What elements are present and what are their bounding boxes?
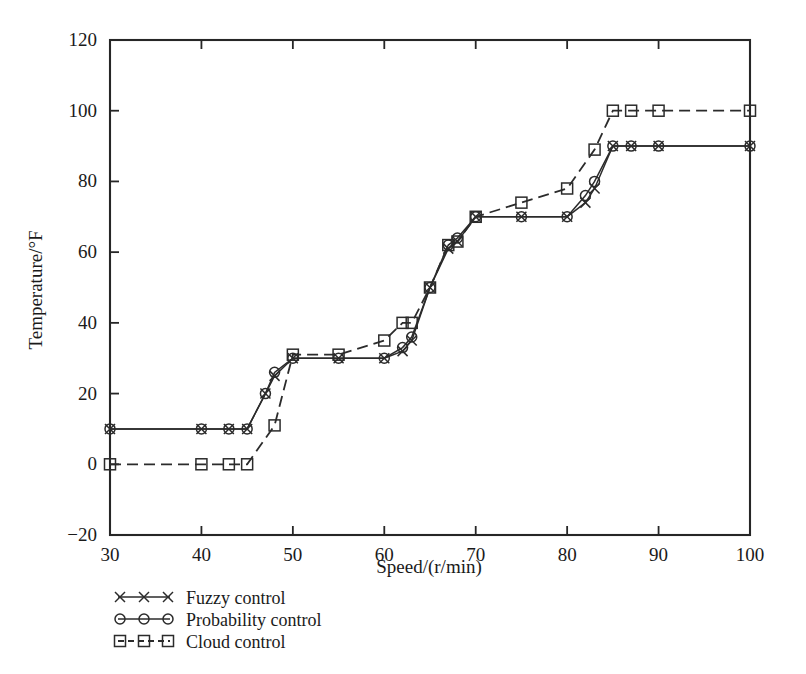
legend-label: Probability control <box>186 610 321 630</box>
y-tick-label: 60 <box>78 241 97 262</box>
legend-label: Cloud control <box>186 632 286 652</box>
y-tick-label: −20 <box>67 524 97 545</box>
y-tick-label: 120 <box>69 29 98 50</box>
x-tick-label: 50 <box>283 544 302 565</box>
y-tick-label: 100 <box>69 100 98 121</box>
y-tick-label: 0 <box>88 453 98 474</box>
x-axis-title: Speed/(r/min) <box>376 556 482 578</box>
x-tick-label: 90 <box>649 544 668 565</box>
x-tick-label: 30 <box>101 544 120 565</box>
y-tick-label: 80 <box>78 170 97 191</box>
x-tick-label: 80 <box>558 544 577 565</box>
y-axis-title: Temperature/°F <box>25 230 46 349</box>
chart-figure: 30405060708090100 −20020406080100120 Spe… <box>0 0 806 674</box>
y-tick-label: 20 <box>78 383 97 404</box>
legend-label: Fuzzy control <box>186 588 285 608</box>
y-tick-label: 40 <box>78 312 97 333</box>
temperature-speed-line-chart: 30405060708090100 −20020406080100120 Spe… <box>0 0 806 674</box>
x-tick-label: 100 <box>736 544 765 565</box>
x-tick-label: 40 <box>192 544 211 565</box>
